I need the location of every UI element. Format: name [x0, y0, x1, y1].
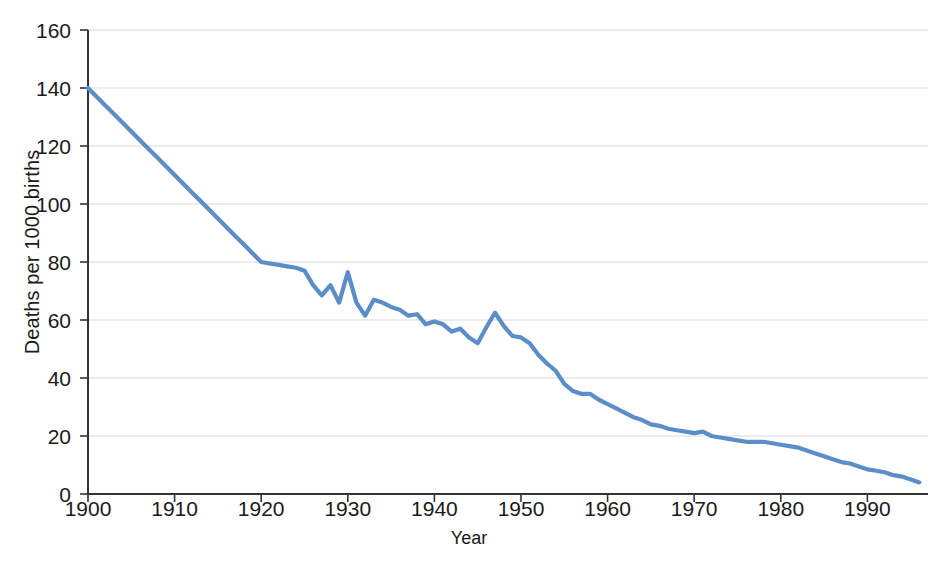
gridlines	[88, 30, 928, 436]
x-axis-title: Year	[0, 528, 938, 549]
axis-ticks	[80, 30, 867, 502]
plot-area	[0, 0, 938, 564]
data-series-line	[88, 88, 919, 482]
infant-mortality-line-chart: Deaths per 1000 births 02040608010012014…	[0, 0, 938, 564]
